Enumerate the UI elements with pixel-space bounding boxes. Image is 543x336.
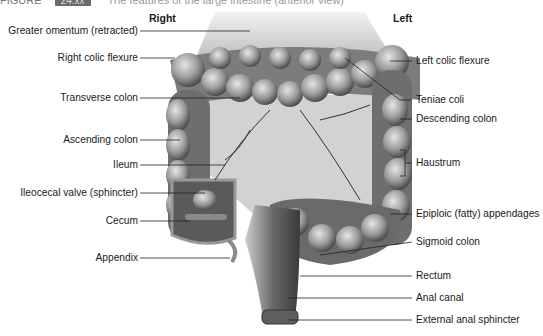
- label-cecum: Cecum: [106, 215, 138, 227]
- label-sigmoid-colon: Sigmoid colon: [416, 236, 480, 248]
- label-teniae-coli: Teniae coli: [416, 94, 464, 106]
- label-descending-colon: Descending colon: [416, 113, 497, 125]
- label-right-colic-flexure: Right colic flexure: [58, 52, 138, 64]
- label-left-colic-flexure: Left colic flexure: [416, 55, 490, 67]
- rectum-shape: [245, 205, 300, 324]
- label-ileocecal-valve: Ileocecal valve (sphincter): [20, 187, 138, 199]
- label-ileum: Ileum: [113, 159, 138, 171]
- label-epiploic-appendages: Epiploic (fatty) appendages: [416, 208, 539, 220]
- label-external-anal-sphincter: External anal sphincter: [416, 314, 520, 326]
- label-ascending-colon: Ascending colon: [63, 134, 138, 146]
- label-transverse-colon: Transverse colon: [60, 92, 138, 104]
- label-anal-canal: Anal canal: [416, 292, 464, 304]
- large-intestine-illustration: [0, 0, 543, 336]
- label-greater-omentum: Greater omentum (retracted): [8, 25, 138, 37]
- label-haustrum: Haustrum: [416, 157, 460, 169]
- label-rectum: Rectum: [416, 270, 451, 282]
- label-appendix: Appendix: [96, 252, 138, 264]
